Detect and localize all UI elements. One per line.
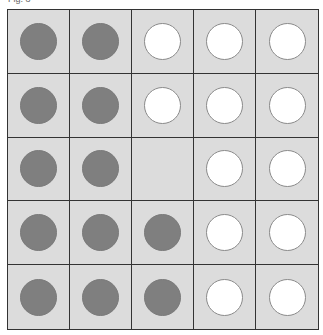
empty-circle-icon bbox=[206, 279, 243, 316]
grid-cell-r3-c1 bbox=[8, 138, 70, 202]
grid-cell-r5-c2 bbox=[70, 265, 132, 329]
grid-cell-r5-c1 bbox=[8, 265, 70, 329]
filled-circle-icon bbox=[82, 214, 119, 251]
grid-cell-r3-c4 bbox=[194, 138, 256, 202]
empty-circle-icon bbox=[269, 150, 306, 187]
grid-cell-r5-c5 bbox=[256, 265, 318, 329]
grid-cell-r2-c4 bbox=[194, 74, 256, 138]
filled-circle-icon bbox=[144, 279, 181, 316]
filled-circle-icon bbox=[82, 279, 119, 316]
empty-circle-icon bbox=[206, 214, 243, 251]
grid-cell-r3-c2 bbox=[70, 138, 132, 202]
filled-circle-icon bbox=[144, 214, 181, 251]
grid-cell-r4-c5 bbox=[256, 201, 318, 265]
filled-circle-icon bbox=[20, 23, 57, 60]
grid-cell-r3-c5 bbox=[256, 138, 318, 202]
grid-cell-r2-c5 bbox=[256, 74, 318, 138]
filled-circle-icon bbox=[82, 150, 119, 187]
grid-cell-r2-c3 bbox=[132, 74, 194, 138]
grid-cell-r3-c3 bbox=[132, 138, 194, 202]
grid-cell-r4-c3 bbox=[132, 201, 194, 265]
grid-cell-r1-c5 bbox=[256, 10, 318, 74]
dot-grid bbox=[7, 9, 319, 330]
filled-circle-icon bbox=[20, 279, 57, 316]
grid-cell-r1-c4 bbox=[194, 10, 256, 74]
empty-circle-icon bbox=[206, 150, 243, 187]
filled-circle-icon bbox=[20, 214, 57, 251]
empty-circle-icon bbox=[144, 23, 181, 60]
grid-cell-r4-c1 bbox=[8, 201, 70, 265]
grid-cell-r4-c2 bbox=[70, 201, 132, 265]
empty-circle-icon bbox=[144, 87, 181, 124]
grid-cell-r1-c1 bbox=[8, 10, 70, 74]
grid-cell-r5-c4 bbox=[194, 265, 256, 329]
grid-cell-r2-c1 bbox=[8, 74, 70, 138]
figure-caption: Fig. 8 bbox=[8, 0, 31, 4]
empty-circle-icon bbox=[206, 23, 243, 60]
filled-circle-icon bbox=[82, 87, 119, 124]
grid-cell-r2-c2 bbox=[70, 74, 132, 138]
empty-circle-icon bbox=[269, 23, 306, 60]
empty-circle-icon bbox=[269, 214, 306, 251]
empty-circle-icon bbox=[269, 87, 306, 124]
grid-cell-r1-c2 bbox=[70, 10, 132, 74]
filled-circle-icon bbox=[20, 150, 57, 187]
grid-cell-r1-c3 bbox=[132, 10, 194, 74]
filled-circle-icon bbox=[20, 87, 57, 124]
filled-circle-icon bbox=[82, 23, 119, 60]
empty-circle-icon bbox=[269, 279, 306, 316]
grid-cell-r4-c4 bbox=[194, 201, 256, 265]
empty-circle-icon bbox=[206, 87, 243, 124]
grid-cell-r5-c3 bbox=[132, 265, 194, 329]
